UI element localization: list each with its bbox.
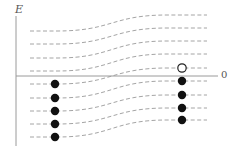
energy-level-line: [30, 15, 207, 31]
right-filled-dot: [178, 91, 186, 99]
right-filled-dot: [178, 116, 186, 124]
left-filled-dot: [51, 107, 59, 115]
left-filled-dot: [51, 120, 59, 128]
occupation-dots: [51, 64, 186, 141]
right-filled-dot: [178, 104, 186, 112]
zero-energy-label: 0: [221, 69, 227, 80]
right-open-dot: [178, 64, 186, 72]
right-filled-dot: [178, 77, 186, 85]
left-filled-dot: [51, 80, 59, 88]
energy-level-line: [30, 28, 207, 44]
left-filled-dot: [51, 133, 59, 141]
energy-axis-label: E: [15, 3, 23, 16]
energy-level-diagram: [0, 0, 244, 148]
left-filled-dot: [51, 94, 59, 102]
